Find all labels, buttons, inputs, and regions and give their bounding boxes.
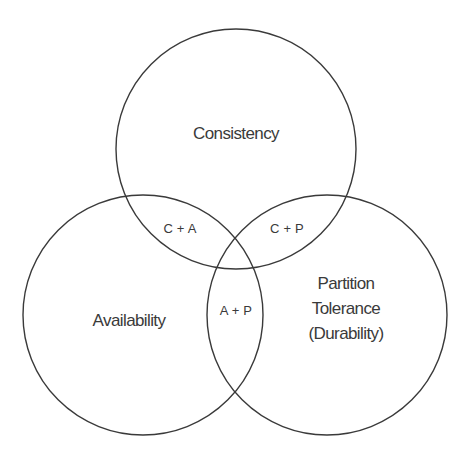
durability-label: (Durability): [309, 324, 384, 343]
consistency-circle: [116, 29, 356, 269]
consistency-label: Consistency: [193, 124, 280, 143]
availability-label: Availability: [93, 311, 167, 330]
overlap-a-p-label: A + P: [220, 303, 252, 318]
tolerance-label: Tolerance: [312, 299, 380, 318]
overlap-c-p-label: C + P: [270, 221, 304, 236]
cap-venn-diagram: Consistency Availability Partition Toler…: [0, 0, 469, 460]
overlap-c-a-label: C + A: [163, 221, 196, 236]
partition-label: Partition: [318, 274, 375, 293]
